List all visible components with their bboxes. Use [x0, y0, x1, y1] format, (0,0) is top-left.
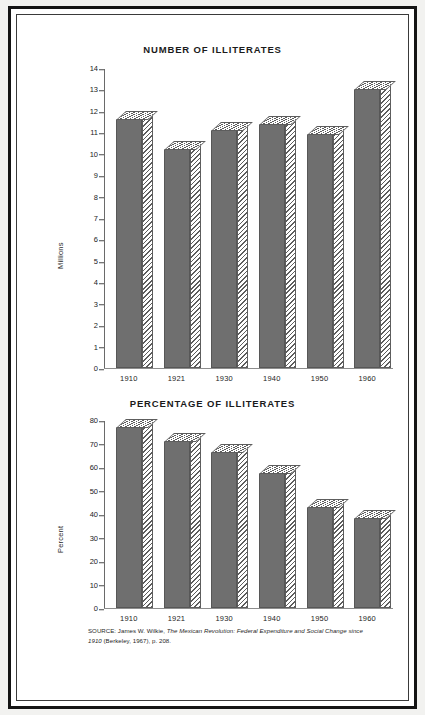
source-note-prefix: SOURCE: James W. Wilkie,	[88, 627, 167, 634]
bar-front-face	[116, 427, 142, 608]
y-tick-label: 13	[90, 87, 98, 95]
y-tick-label: 50	[90, 488, 98, 496]
bar-slot	[105, 69, 153, 368]
y-tick-label: 6	[94, 237, 98, 245]
x-axis-labels-pct: 191019211930194019501960	[105, 609, 391, 623]
source-note-suffix: (Berkeley, 1967), p. 208.	[102, 637, 171, 644]
bar-group-percentage-of-illiterates	[105, 421, 391, 608]
chart-number-of-illiterates: NUMBER OF ILLITERATES Millions 012345678…	[16, 44, 409, 389]
bar-side-face-hatched	[142, 419, 153, 608]
bar	[211, 130, 237, 368]
y-tick-label: 14	[90, 65, 98, 73]
x-tick-label: 1921	[153, 374, 201, 383]
y-tick-label: 30	[90, 535, 98, 543]
y-tick-label: 1	[94, 344, 98, 352]
bar-front-face	[164, 149, 190, 368]
y-axis-title-millions: Millions	[56, 242, 65, 269]
bar	[307, 507, 333, 608]
bar-side-face-hatched	[333, 499, 344, 608]
bar-side-face-hatched	[380, 510, 391, 608]
x-tick-label: 1910	[105, 614, 153, 623]
bar	[259, 124, 285, 368]
y-tick-label: 80	[90, 417, 98, 425]
bar-slot	[105, 421, 153, 608]
y-tick-label: 2	[94, 322, 98, 330]
y-tick-label: 0	[94, 605, 98, 613]
y-tick-label: 10	[90, 151, 98, 159]
bar-front-face	[354, 518, 380, 608]
bar	[259, 473, 285, 608]
bar-slot	[153, 421, 201, 608]
x-tick-label: 1921	[153, 614, 201, 623]
bar-side-face-hatched	[190, 433, 201, 608]
x-tick-label: 1950	[296, 614, 344, 623]
y-tick-label: 60	[90, 464, 98, 472]
y-tick-label: 40	[90, 511, 98, 519]
chart-percentage-of-illiterates: PERCENTAGE OF ILLITERATES Percent 010203…	[16, 398, 409, 628]
x-tick-label: 1940	[248, 614, 296, 623]
bar-front-face	[259, 124, 285, 368]
x-tick-label: 1940	[248, 374, 296, 383]
y-tick-label: 4	[94, 280, 98, 288]
y-tick-label: 8	[94, 194, 98, 202]
bar-front-face	[164, 441, 190, 608]
source-note: SOURCE: James W. Wilkie, The Mexican Rev…	[88, 626, 378, 646]
bar	[164, 149, 190, 368]
bar-slot	[153, 69, 201, 368]
x-tick-label: 1960	[343, 614, 391, 623]
bar-front-face	[211, 130, 237, 368]
bar	[164, 441, 190, 608]
bar-slot	[296, 69, 344, 368]
bar-slot	[200, 69, 248, 368]
y-axis-title-percent: Percent	[56, 526, 65, 553]
figure-page: NUMBER OF ILLITERATES Millions 012345678…	[0, 0, 425, 715]
x-tick-label: 1950	[296, 374, 344, 383]
bar-side-face-hatched	[237, 444, 248, 608]
y-tick-label: 7	[94, 215, 98, 223]
bar-side-face-hatched	[333, 126, 344, 368]
bar-side-face-hatched	[237, 122, 248, 368]
bar	[116, 427, 142, 608]
x-tick-label: 1910	[105, 374, 153, 383]
bar	[116, 119, 142, 368]
bar	[307, 134, 333, 368]
x-tick-label: 1960	[343, 374, 391, 383]
y-tick-label: 10	[90, 582, 98, 590]
y-tick-label: 3	[94, 301, 98, 309]
bar-slot	[343, 421, 391, 608]
bar	[354, 89, 380, 368]
bar-front-face	[354, 89, 380, 368]
plot-area-number-of-illiterates: Millions 01234567891011121314 1910192119…	[16, 69, 409, 369]
x-axis-labels-count: 191019211930194019501960	[105, 369, 391, 383]
y-tick-label: 70	[90, 441, 98, 449]
x-tick-label: 1930	[200, 374, 248, 383]
y-tick-label: 9	[94, 172, 98, 180]
y-axis-ticks-millions: 01234567891011121314	[72, 69, 98, 369]
bar-side-face-hatched	[285, 116, 296, 368]
y-tick-label: 5	[94, 258, 98, 266]
bar-slot	[248, 69, 296, 368]
bar	[354, 518, 380, 608]
plot-area-percentage-of-illiterates: Percent 01020304050607080 19101921193019…	[16, 421, 409, 609]
chart-title-percentage-of-illiterates: PERCENTAGE OF ILLITERATES	[16, 398, 409, 409]
y-tick-label: 0	[94, 365, 98, 373]
bar-front-face	[259, 473, 285, 608]
bar-front-face	[116, 119, 142, 368]
y-tick-label: 20	[90, 558, 98, 566]
bar-front-face	[307, 507, 333, 608]
bar-slot	[248, 421, 296, 608]
bar-slot	[200, 421, 248, 608]
bar-side-face-hatched	[380, 81, 391, 368]
y-tick-label: 12	[90, 108, 98, 116]
y-axis-ticks-percent: 01020304050607080	[72, 421, 98, 609]
bar-side-face-hatched	[190, 141, 201, 368]
y-tick-label: 11	[90, 130, 98, 138]
bar	[211, 452, 237, 608]
bar-slot	[343, 69, 391, 368]
bar-side-face-hatched	[285, 465, 296, 608]
bar-side-face-hatched	[142, 111, 153, 368]
bar-front-face	[211, 452, 237, 608]
chart-title-number-of-illiterates: NUMBER OF ILLITERATES	[16, 44, 409, 55]
bar-front-face	[307, 134, 333, 368]
bar-group-number-of-illiterates	[105, 69, 391, 368]
